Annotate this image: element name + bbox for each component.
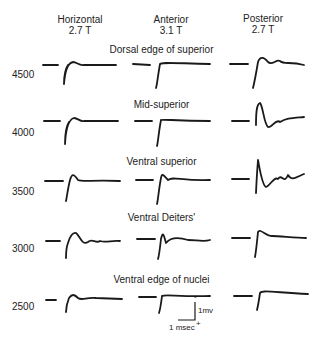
trace-r4-posterior [232, 231, 306, 257]
scale-voltage-label: 1mv [198, 306, 213, 315]
trace-r1-horizontal [43, 62, 116, 84]
scale-minus: - [194, 292, 197, 301]
trace-r4-anterior [137, 234, 210, 259]
trace-r3-anterior [136, 175, 210, 204]
trace-r4-horizontal [46, 233, 120, 258]
trace-r5-posterior [234, 291, 308, 310]
trace-r5-horizontal [46, 295, 122, 312]
waveform-traces [0, 0, 323, 340]
scale-time-label: 1 msec [169, 323, 195, 332]
scale-bar [178, 302, 195, 320]
trace-r2-posterior [232, 103, 304, 127]
trace-r1-posterior [230, 58, 304, 88]
trace-r1-anterior [133, 63, 210, 88]
trace-r3-horizontal [45, 175, 120, 201]
trace-r2-horizontal [44, 118, 118, 144]
scale-plus: + [196, 319, 201, 328]
trace-r2-anterior [135, 120, 210, 146]
trace-r3-posterior [232, 160, 304, 193]
